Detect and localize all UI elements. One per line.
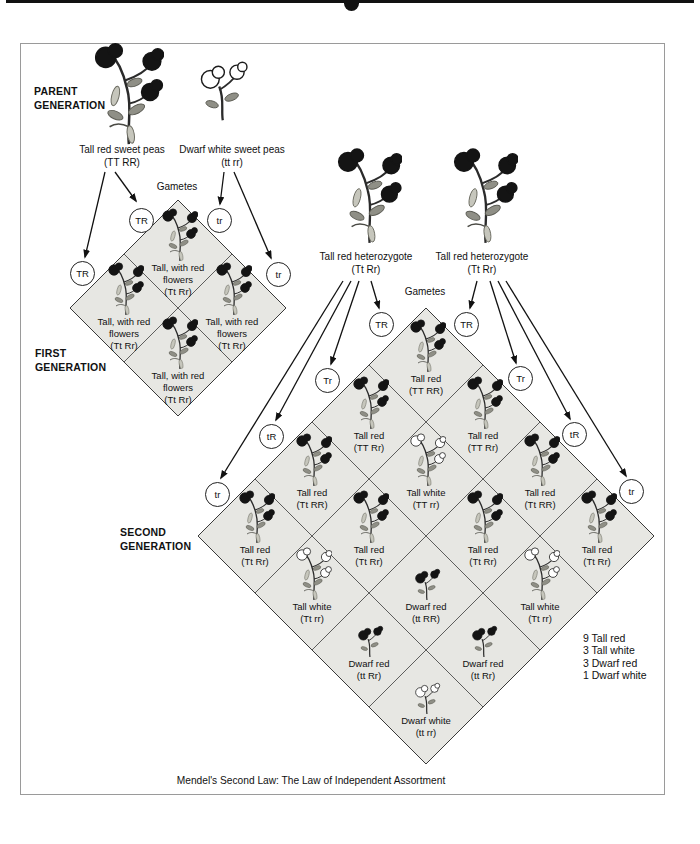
plant-icon-dwarf-red (467, 624, 499, 658)
parent-right-label: Dwarf white sweet peas (tt rr) (157, 143, 307, 169)
plant-icon-dwarf-white (410, 681, 442, 715)
plant-icon-tall-white (292, 547, 332, 601)
parent-generation-label: PARENT GENERATION (34, 84, 105, 112)
plant-icon-tall-red (463, 376, 503, 430)
plant-icon-heterozygote-left (339, 149, 402, 243)
plant-icon-dwarf-red (353, 624, 385, 658)
plant-icon-tall-red (104, 262, 144, 316)
plant-icon-tall-red (349, 490, 389, 544)
plant-icon-tall-red (158, 316, 198, 370)
gametes-label-heterozygote-cross: Gametes (385, 286, 465, 297)
plant-icon-tall-white (406, 433, 446, 487)
plant-icon-dwarf-red (410, 567, 442, 601)
punnett-cell: Dwarf white(tt rr) (374, 661, 478, 738)
plant-icon-tall-red (292, 433, 332, 487)
plant-icon-tall-red-parent (96, 44, 164, 144)
plant-icon-tall-red (212, 262, 252, 316)
plant-icon-tall-red (349, 376, 389, 430)
punnett-cell: Tall, with redflowers(Tt Rr) (126, 316, 230, 406)
plant-icon-tall-red (463, 490, 503, 544)
plant-icon-tall-red (235, 490, 275, 544)
plant-icon-tall-red (520, 433, 560, 487)
plant-icon-tall-red (577, 490, 617, 544)
plant-icon-tall-white (520, 547, 560, 601)
plant-icon-dwarf-white-parent (201, 62, 247, 120)
ratio-summary: 9 Tall red 3 Tall white 3 Dwarf red 1 Dw… (583, 632, 647, 681)
gametes-label-parent-cross: Gametes (137, 181, 217, 192)
heterozygote-right-label: Tall red heterozygote (Tt Rr) (407, 250, 557, 276)
plant-icon-tall-red (158, 208, 198, 262)
plant-icon-tall-red (406, 319, 446, 373)
second-generation-label: SECOND GENERATION (120, 525, 191, 553)
figure-caption: Mendel's Second Law: The Law of Independ… (131, 775, 491, 786)
plant-icon-heterozygote-right (455, 149, 518, 243)
